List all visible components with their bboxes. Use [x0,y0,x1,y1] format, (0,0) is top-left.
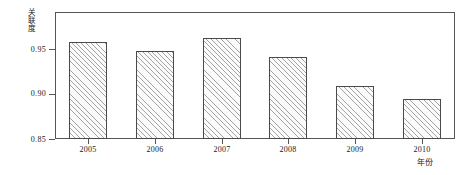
y-axis-title: 关联度 [22,8,34,32]
y-tick-label-0.95: 0.95 [12,45,46,54]
x-tick-label-2009: 2009 [333,145,377,154]
x-tick-label-2006: 2006 [133,145,177,154]
bar-2007 [203,38,241,139]
x-tick-mark-2010 [422,139,423,144]
bar-2008 [269,57,307,139]
plot-area [55,12,455,139]
plot-inner [56,13,454,138]
bar-2005 [69,42,107,139]
y-tick-label-0.90: 0.90 [12,89,46,98]
bar-2006 [136,51,174,139]
x-tick-label-2010: 2010 [400,145,444,154]
x-tick-mark-2005 [88,139,89,144]
x-tick-mark-2009 [355,139,356,144]
bar-chart-figure: 关联度 0.95 0.90 0.85 2005 2006 2007 2008 2… [0,0,469,175]
x-tick-label-2007: 2007 [200,145,244,154]
y-tick-label-0.85: 0.85 [12,135,46,144]
y-tick-mark-0.85 [49,139,55,140]
x-tick-mark-2008 [288,139,289,144]
bar-2010 [403,99,441,139]
x-tick-mark-2006 [155,139,156,144]
x-tick-label-2005: 2005 [66,145,110,154]
x-tick-label-2008: 2008 [266,145,310,154]
x-axis-title: 年份 [417,156,433,167]
x-tick-mark-2007 [222,139,223,144]
bar-2009 [336,86,374,139]
